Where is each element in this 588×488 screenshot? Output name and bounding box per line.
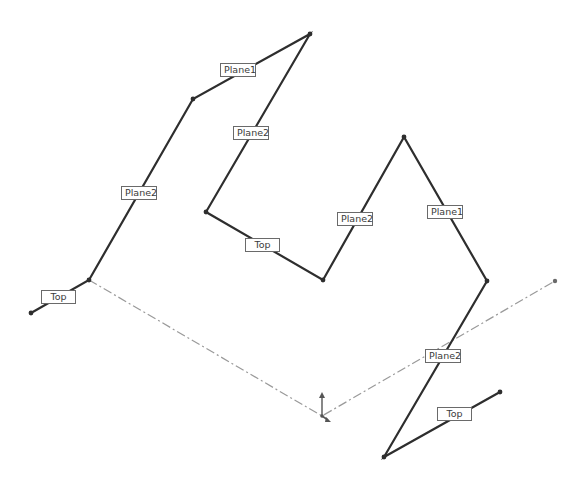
- relation-label-top[interactable]: Top: [41, 290, 76, 304]
- sketch-point[interactable]: [402, 135, 407, 140]
- sketch-point[interactable]: [204, 210, 209, 215]
- sketch-point[interactable]: [382, 455, 387, 460]
- relation-label-top[interactable]: Top: [437, 407, 472, 421]
- relation-label-plane2[interactable]: Plane2: [337, 212, 373, 226]
- sketch-point[interactable]: [87, 278, 92, 283]
- sketch-point[interactable]: [498, 390, 503, 395]
- relation-label-plane1[interactable]: Plane1: [220, 63, 256, 77]
- sketch-canvas[interactable]: [0, 0, 588, 488]
- relation-label-plane2[interactable]: Plane2: [233, 126, 269, 140]
- sketch-point[interactable]: [191, 97, 196, 102]
- sketch-point[interactable]: [321, 278, 326, 283]
- sketch-point[interactable]: [308, 32, 313, 37]
- construction-endpoint[interactable]: [553, 279, 557, 283]
- relation-label-plane1[interactable]: Plane1: [427, 205, 463, 219]
- relation-label-plane2[interactable]: Plane2: [121, 186, 157, 200]
- sketch-point[interactable]: [29, 311, 34, 316]
- relation-label-plane2[interactable]: Plane2: [425, 349, 461, 363]
- relation-label-top[interactable]: Top: [245, 238, 280, 252]
- origin-triad-icon: [319, 392, 331, 422]
- sketch-point[interactable]: [485, 279, 490, 284]
